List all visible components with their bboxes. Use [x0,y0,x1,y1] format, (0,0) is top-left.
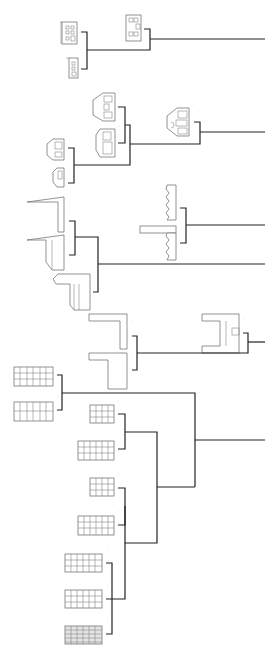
label: · [182,226,183,230]
building-sawtooth-a [166,185,176,220]
group-blocks: · · · [89,314,265,389]
building-apt-g [65,626,102,644]
building-sawtooth-b [140,226,176,260]
link-sawtooth [180,208,186,243]
link-tower-ab [69,221,75,255]
building-apt-b [78,441,114,460]
label: · [118,399,119,403]
label: · [70,239,71,243]
building-gabled-a [93,93,115,121]
group-apartments: · · · · · · · [65,399,265,644]
link-grid-trunk [62,393,195,487]
label: · [182,192,183,196]
label: · [145,12,146,16]
link-apt-ab [118,414,125,449]
label: · [131,319,132,323]
building-gabled-d [53,168,64,187]
building-gabled-e [167,108,189,136]
link-gabled-ab [118,107,125,143]
link-apt-efg-join [106,543,125,599]
link-gabled-all [130,122,200,144]
building-townhouse-a [60,22,77,44]
group-sawtooth: · · [140,185,265,260]
label: · [118,90,119,94]
label: · [107,619,108,623]
building-gabled-c [47,139,64,160]
label: · [107,548,108,552]
building-tower-a [27,197,64,232]
group-towers: · · · [27,197,265,310]
label: · [58,361,59,365]
building-townhouse-b [66,58,78,78]
building-grid-a [14,367,53,386]
label: · [82,16,83,20]
building-grid-b [14,402,53,421]
building-l-block-a [89,314,127,349]
building-apt-e [65,554,102,572]
building-apt-d [78,516,114,535]
label: · [58,395,59,399]
link-gabled-cd [68,148,74,183]
building-h-block [202,314,239,353]
label: · [93,287,94,291]
label: · [118,124,119,128]
group-grid-facades: · · [14,361,195,487]
link-apt-abcd [125,432,157,543]
building-apt-c [90,478,114,496]
label: · [131,355,132,359]
label: · [118,433,119,437]
label: · [118,509,119,513]
label: · [193,103,194,107]
building-tower-b [27,235,64,270]
building-apt-f [65,590,102,608]
link-apt-cd [118,488,125,525]
building-apt-a [90,405,114,423]
label: · [82,51,83,55]
label: · [70,203,71,207]
label: · [107,583,108,587]
dendrogram-canvas: · · · · [0,0,278,659]
label: · [69,167,70,171]
building-l-block-b [89,353,127,389]
building-gabled-b [96,129,115,157]
group-gabled-houses: · · · · · [47,90,265,187]
group-townhouses: · · · [60,12,265,78]
link-grid [57,375,62,410]
label: · [118,473,119,477]
link-l-blocks [132,336,137,370]
building-townhouse-c [126,15,141,41]
label: · [244,317,245,321]
building-slab-podium [53,274,90,310]
label: · [69,132,70,136]
